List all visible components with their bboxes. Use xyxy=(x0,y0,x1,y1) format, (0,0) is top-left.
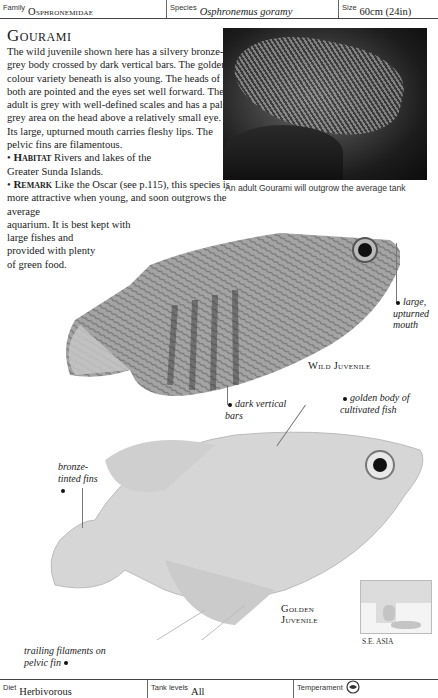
header-bar: Family Osphronemidae Species Osphronemus… xyxy=(0,0,438,19)
fins-leader-line xyxy=(82,488,83,528)
bullet: • xyxy=(7,152,11,163)
golden-juvenile-label-line1: Golden xyxy=(281,603,314,614)
annotation-golden-body: golden body of cultivated fish xyxy=(340,392,435,415)
size-cell: Size 60cm (24in) xyxy=(338,0,438,18)
adult-gourami-photo xyxy=(223,28,427,180)
species-cell: Species Osphronemus goramy xyxy=(166,0,338,18)
annotation-bars: dark vertical bars xyxy=(225,398,295,421)
annotation-dot xyxy=(64,661,68,665)
habitat-paragraph: • Habitat Rivers and lakes of the Greate… xyxy=(7,151,182,178)
species-label: Species xyxy=(170,3,197,12)
size-value: 60cm (24in) xyxy=(360,6,412,18)
map-land xyxy=(361,581,431,603)
distribution-map xyxy=(360,580,432,634)
remark-label: Remark xyxy=(13,178,52,190)
mouth-leader-line xyxy=(396,243,397,303)
map-range xyxy=(383,605,395,621)
diet-cell: Diet Herbivorous xyxy=(0,680,147,698)
annotation-filaments: trailing filaments on pelvic fin xyxy=(24,645,114,668)
habitat-label: Habitat xyxy=(13,151,51,163)
family-cell: Family Osphronemidae xyxy=(0,0,166,18)
wild-juvenile-label: Wild Juvenile xyxy=(308,360,371,371)
annotation-mouth: large, upturned mouth xyxy=(393,296,438,331)
golden-juvenile-label-line2: Juvenile xyxy=(281,614,318,625)
page-title: Gourami xyxy=(7,26,71,46)
tank-levels-value: All xyxy=(191,686,204,698)
footer-bar: Diet Herbivorous Tank levels All Tempera… xyxy=(0,679,438,698)
map-range xyxy=(391,621,421,629)
family-value: Osphronemidae xyxy=(28,6,93,18)
fish-peaceful-icon xyxy=(346,680,360,694)
photo-caption: An adult Gourami will outgrow the averag… xyxy=(225,183,406,193)
size-label: Size xyxy=(342,3,357,12)
tank-levels-cell: Tank levels All xyxy=(147,680,293,698)
plant-image xyxy=(223,125,343,180)
bullet: • xyxy=(7,179,11,190)
annotation-dot xyxy=(228,403,232,407)
wild-juvenile-fish-image xyxy=(60,225,400,405)
family-label: Family xyxy=(3,3,25,12)
temperament-cell: Temperament xyxy=(293,680,438,698)
map-label: S.E. ASIA xyxy=(362,637,393,646)
diet-label: Diet xyxy=(3,683,16,692)
tank-levels-label: Tank levels xyxy=(151,683,188,692)
annotation-dot xyxy=(343,397,347,401)
annotation-dot xyxy=(396,301,400,305)
intro-paragraph: The wild juvenile shown here has a silve… xyxy=(7,45,232,151)
diet-value: Herbivorous xyxy=(19,686,72,698)
annotation-dot xyxy=(61,489,65,493)
species-value: Osphronemus goramy xyxy=(200,6,293,18)
temperament-label: Temperament xyxy=(297,683,343,692)
annotation-fins: bronze-tinted fins xyxy=(58,461,98,496)
